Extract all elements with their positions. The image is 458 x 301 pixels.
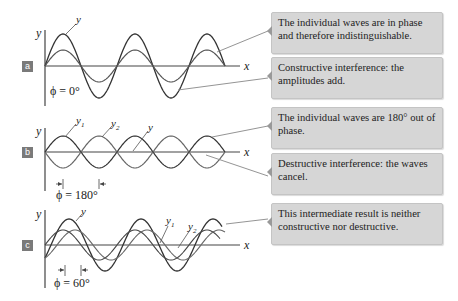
callout-leader-a1 (217, 31, 268, 52)
curve-label-y-c: y (80, 205, 86, 217)
leader-y1-b (65, 124, 76, 137)
callout-leader-c1 (226, 219, 268, 224)
x-axis-label-c: x (243, 238, 250, 252)
callout-leader-b1 (212, 126, 268, 137)
panel-b-graph: y x y1 y2 y ϕ = 180° (35, 114, 268, 202)
callout-destructive: Destructive interference: the waves canc… (271, 153, 443, 195)
callout-in-phase: The individual waves are in phase and th… (271, 12, 443, 54)
callout-intermediate: This intermediate result is neither cons… (271, 203, 443, 245)
y-axis-label-b: y (35, 124, 42, 138)
x-axis-label-a: x (243, 59, 250, 73)
leader-y1-c (160, 226, 168, 243)
curve-label-y-b: y (147, 121, 153, 133)
panel-a-graph: y x y ϕ = 0° (35, 13, 268, 106)
panel-label-b: b (22, 147, 33, 158)
phase-label-c: ϕ = 60° (54, 276, 90, 290)
leader-y-a (66, 24, 76, 34)
phase-label-a: ϕ = 0° (50, 84, 80, 98)
callout-leader-a2 (178, 78, 268, 90)
y-axis-label-a: y (35, 26, 42, 40)
panel-label-a: a (22, 61, 33, 72)
panel-label-c: c (22, 240, 33, 251)
callout-out-of-phase: The individual waves are 180° out of pha… (271, 107, 443, 149)
phase-marker-c (58, 265, 88, 276)
panel-c-graph: y x y y1 y2 ϕ = 60° (35, 205, 268, 290)
phase-label-b: ϕ = 180° (56, 188, 98, 202)
x-axis-label-b: x (243, 145, 250, 159)
curve-label-y2-b: y2 (110, 117, 120, 132)
curve-label-y-a: y (75, 13, 81, 25)
leader-y-b (133, 131, 148, 151)
callout-constructive: Constructive interference: the amplitude… (271, 57, 443, 99)
curve-label-y1-b: y1 (75, 114, 84, 129)
curve-label-y1-c: y1 (165, 214, 174, 229)
y-axis-label-c: y (35, 207, 42, 221)
callout-leader-b2 (206, 155, 268, 176)
